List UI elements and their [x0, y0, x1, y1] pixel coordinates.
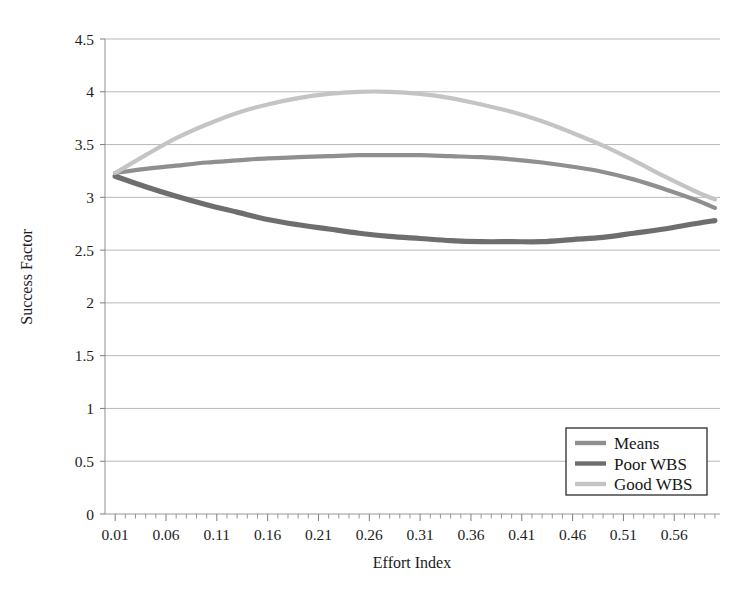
chart-container: 00.511.522.533.544.5 0.010.060.110.160.2…: [0, 0, 748, 602]
y-tick-label-3.5: 3.5: [75, 136, 95, 153]
x-axis-title: Effort Index: [373, 554, 451, 571]
x-tick-label-0.51: 0.51: [610, 526, 637, 543]
y-tick-label-4: 4: [86, 83, 94, 100]
data-series-group: [115, 92, 715, 242]
x-tick-label-0.46: 0.46: [559, 526, 586, 543]
gridlines: [105, 39, 720, 461]
y-tick-label-0.5: 0.5: [75, 453, 95, 470]
x-tick-label-0.41: 0.41: [508, 526, 535, 543]
y-tick-label-0: 0: [86, 506, 94, 523]
x-tick-label-0.36: 0.36: [457, 526, 484, 543]
y-axis-tick-labels: 00.511.522.533.544.5: [75, 31, 95, 523]
x-tick-label-0.26: 0.26: [356, 526, 383, 543]
legend-label-means: Means: [614, 434, 659, 453]
y-tick-label-1: 1: [86, 400, 94, 417]
y-tick-label-2.5: 2.5: [75, 242, 95, 259]
x-tick-label-0.16: 0.16: [254, 526, 281, 543]
x-tick-label-0.31: 0.31: [407, 526, 434, 543]
legend-label-poor-wbs: Poor WBS: [614, 455, 687, 474]
x-tick-label-0.01: 0.01: [102, 526, 129, 543]
series-line-means: [115, 155, 715, 208]
series-line-poor-wbs: [115, 176, 715, 242]
y-axis-title: Success Factor: [18, 229, 35, 325]
x-tick-label-0.11: 0.11: [204, 526, 231, 543]
legend-label-good-wbs: Good WBS: [614, 475, 693, 494]
series-line-good-wbs: [115, 92, 715, 200]
x-axis-ticks: [115, 514, 715, 521]
x-tick-label-0.21: 0.21: [305, 526, 332, 543]
y-tick-label-1.5: 1.5: [75, 347, 95, 364]
chart-legend: MeansPoor WBSGood WBS: [566, 428, 707, 495]
x-tick-label-0.06: 0.06: [152, 526, 179, 543]
x-tick-label-0.56: 0.56: [661, 526, 688, 543]
y-tick-label-2: 2: [86, 294, 94, 311]
y-tick-label-4.5: 4.5: [75, 31, 95, 48]
line-chart: 00.511.522.533.544.5 0.010.060.110.160.2…: [0, 0, 748, 602]
y-tick-label-3: 3: [86, 189, 94, 206]
x-axis-tick-labels: 0.010.060.110.160.210.260.310.360.410.46…: [102, 526, 688, 543]
